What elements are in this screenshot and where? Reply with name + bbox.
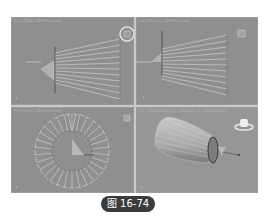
- viewport-layout: [+] [Top] [Wireframe]: [11, 17, 258, 193]
- viewport-top[interactable]: [+] [Top] [Wireframe]: [11, 17, 134, 105]
- loft-wireframe-left: ↑: [11, 107, 134, 193]
- svg-text:↑: ↑: [15, 185, 18, 190]
- loft-wireframe-top: ↑: [11, 17, 134, 105]
- loft-wireframe-front: ↑: [136, 17, 258, 105]
- svg-text:↑: ↑: [140, 185, 143, 190]
- viewport-front[interactable]: [+] [Front] [Wireframe] ↑: [136, 17, 258, 105]
- viewport-perspective[interactable]: [+] [Perspective] [Smooth + Highlights]: [136, 107, 258, 193]
- viewport-left[interactable]: [+] [Left] [Wireframe]: [11, 107, 134, 193]
- loft-shaded-perspective: ↑: [136, 107, 258, 193]
- figure-caption: 图 16-74: [101, 196, 155, 212]
- svg-text:↑: ↑: [142, 95, 145, 100]
- svg-text:↑: ↑: [15, 96, 18, 101]
